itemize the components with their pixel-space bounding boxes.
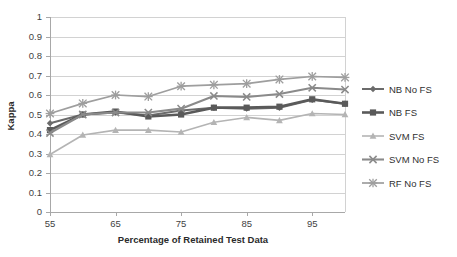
- y-tick-label: 0.6: [29, 89, 42, 100]
- data-point-square: [309, 96, 315, 102]
- legend-label: NB No FS: [389, 84, 432, 95]
- y-tick-label: 1: [37, 11, 42, 22]
- data-point-square: [342, 101, 348, 107]
- data-point-star: [242, 79, 251, 88]
- data-point-star: [46, 109, 55, 118]
- data-point-square: [276, 104, 282, 110]
- x-tick-label: 55: [45, 218, 56, 229]
- y-tick-label: 0.2: [29, 167, 42, 178]
- data-point-star: [144, 92, 153, 101]
- data-point-star: [210, 80, 219, 89]
- line-chart: 00.10.20.30.40.50.60.70.80.91 5565758595…: [0, 0, 457, 257]
- data-point-square: [370, 109, 376, 115]
- y-tick-label: 0.3: [29, 148, 42, 159]
- legend-label: NB FS: [389, 107, 417, 118]
- y-tick-label: 0: [37, 206, 42, 217]
- data-point-star: [341, 73, 350, 82]
- legend-label: SVM No FS: [389, 154, 439, 165]
- data-point-square: [178, 111, 184, 117]
- legend-label: SVM FS: [389, 131, 424, 142]
- x-tick-label: 95: [307, 218, 318, 229]
- y-axis-title: Kappa: [5, 101, 16, 131]
- data-point-star: [111, 91, 120, 100]
- x-tick-label: 75: [176, 218, 187, 229]
- x-axis-title: Percentage of Retained Test Data: [118, 234, 269, 245]
- data-point-star: [78, 99, 87, 108]
- chart-container: 00.10.20.30.40.50.60.70.80.91 5565758595…: [0, 0, 457, 257]
- y-tick-label: 0.4: [29, 128, 42, 139]
- legend-item-rf-no-fs[interactable]: RF No FS: [362, 178, 431, 189]
- data-point-star: [177, 82, 186, 91]
- data-point-star: [308, 72, 317, 81]
- data-point-square: [244, 105, 250, 111]
- y-tick-label: 0.5: [29, 109, 42, 120]
- data-point-star: [369, 179, 378, 188]
- legend-label: RF No FS: [389, 178, 431, 189]
- y-tick-label: 0.8: [29, 50, 42, 61]
- chart-background: [0, 0, 457, 257]
- x-tick-label: 65: [110, 218, 121, 229]
- y-tick-label: 0.9: [29, 31, 42, 42]
- y-tick-label: 0.7: [29, 70, 42, 81]
- y-tick-label: 0.1: [29, 187, 42, 198]
- data-point-square: [211, 105, 217, 111]
- x-tick-label: 85: [241, 218, 252, 229]
- data-point-star: [275, 75, 284, 84]
